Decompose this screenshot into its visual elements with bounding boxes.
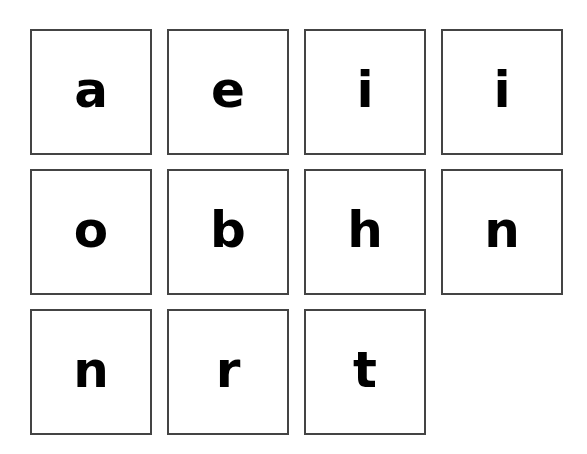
tile-letter: i [493,65,510,115]
tile-letter: h [347,205,383,255]
tile-letter: r [216,345,241,395]
tile-letter: n [484,205,520,255]
letter-tile-e[interactable]: e [167,29,289,155]
tile-letter: e [211,65,245,115]
letter-tile-i[interactable]: i [304,29,426,155]
letter-tile-h[interactable]: h [304,169,426,295]
letter-tile-a[interactable]: a [30,29,152,155]
letter-tile-n-2[interactable]: n [30,309,152,435]
tile-letter: i [356,65,373,115]
letter-tile-o[interactable]: o [30,169,152,295]
tile-letter: a [74,65,108,115]
letter-tile-grid: a e i i o b h n n r t [30,29,563,435]
tile-letter: o [74,205,108,255]
letter-tile-r[interactable]: r [167,309,289,435]
letter-tile-n[interactable]: n [441,169,563,295]
letter-tile-i-2[interactable]: i [441,29,563,155]
tile-letter: n [73,345,109,395]
tile-letter: t [353,345,377,395]
tile-letter: b [210,205,246,255]
letter-tile-b[interactable]: b [167,169,289,295]
letter-tile-t[interactable]: t [304,309,426,435]
